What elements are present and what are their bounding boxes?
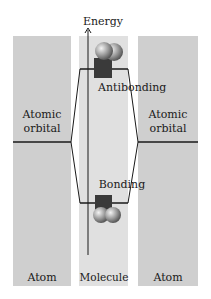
left-orbital-label-2: orbital [13,122,71,135]
right-orbital-label-1: Atomic [138,108,198,121]
antibonding-label: Antibonding [98,81,160,94]
orbital-diagram [0,0,211,299]
right-atom-title: Atom [138,271,198,284]
right-orbital-label-2: orbital [138,122,198,135]
left-atom-title: Atom [13,271,71,284]
left-orbital-label-1: Atomic [13,108,71,121]
axis-label: Energy [78,15,128,28]
bonding-label: Bonding [98,178,146,191]
molecule-title: Molecule [78,271,130,284]
bonding-orbital-icon [93,195,121,223]
antibonding-orbital-icon [94,42,123,78]
